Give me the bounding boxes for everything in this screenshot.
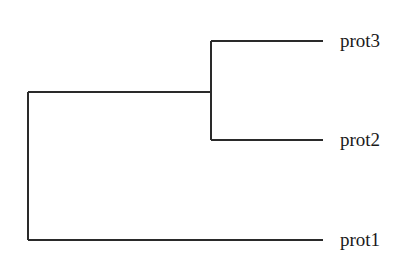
dendrogram: prot3 prot2 prot1 — [0, 0, 408, 263]
leaf-label-prot1: prot1 — [340, 229, 380, 250]
leaf-label-prot2: prot2 — [340, 129, 380, 150]
leaf-label-prot3: prot3 — [340, 30, 380, 51]
